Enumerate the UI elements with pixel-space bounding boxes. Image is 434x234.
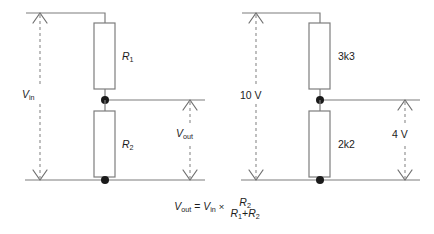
schematic-figure: R1 R2 Vin Vout 3k3 2k2 10 V 4 V Vout = V… (0, 0, 434, 234)
formula-denominator: R1+R2 (230, 208, 259, 219)
resistor-3k3-body (309, 23, 330, 89)
formula-rhs-vin: Vin (203, 200, 216, 212)
formula-lhs: Vout (174, 200, 191, 212)
resistor-3k3-label: 3k3 (338, 51, 355, 62)
vin-label: Vin (22, 89, 35, 100)
output-4v-label: 4 V (392, 129, 408, 140)
resistor-2k2-body (309, 111, 330, 177)
circuit-worked-example-divider (241, 13, 420, 184)
divider-formula: Vout = Vin×R2R1+R2 (0, 196, 434, 218)
top-rail-left (26, 13, 105, 23)
vin-measurement-arrow (33, 13, 47, 180)
resistor-2k2-label: 2k2 (338, 139, 355, 150)
output-4v-measurement-arrow (398, 100, 412, 180)
resistor-r2-body (94, 111, 115, 177)
formula-fraction: R2R1+R2 (230, 197, 259, 219)
resistor-r1-body (94, 23, 115, 89)
formula-times: × (219, 201, 225, 212)
formula-equals: = (194, 200, 200, 212)
supply-10v-label: 10 V (240, 90, 262, 101)
vout-label: Vout (176, 128, 193, 139)
top-rail-right (242, 13, 320, 23)
resistor-r2-label: R2 (122, 139, 134, 150)
junction-dot-ground-left (101, 176, 109, 184)
resistor-r1-label: R1 (122, 51, 134, 62)
circuit-symbolic-divider (25, 13, 205, 184)
junction-dot-ground-right (316, 176, 324, 184)
